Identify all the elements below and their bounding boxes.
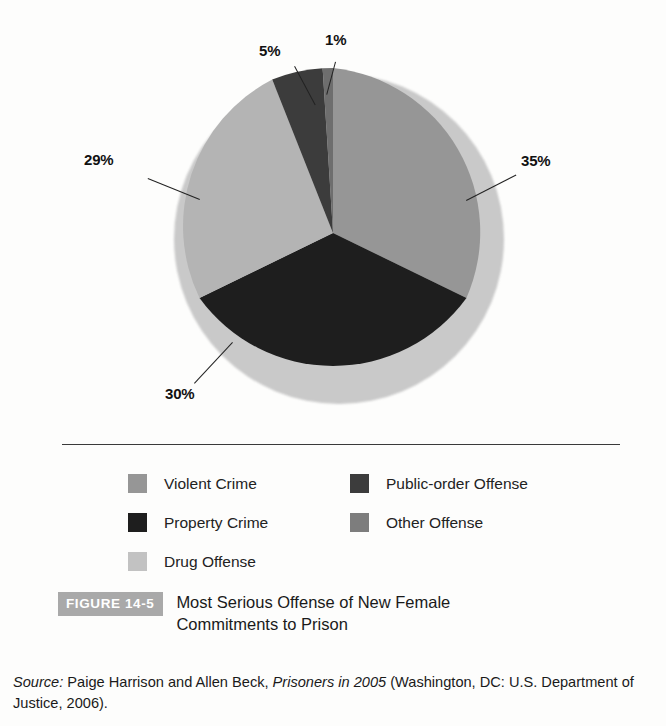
- legend-label-public-order-offense: Public-order Offense: [386, 475, 528, 493]
- figure-root: 1% 5% 35% 29% 30% Violent Crime Public-o…: [0, 0, 666, 726]
- legend-item-drug-offense[interactable]: Drug Offense: [128, 552, 350, 571]
- source-prefix: Source:: [13, 674, 63, 690]
- legend-divider-rule: [62, 444, 620, 445]
- pie-label-public-order-offense: 5%: [259, 42, 280, 59]
- legend-swatch-other-offense: [350, 513, 369, 532]
- figure-caption: FIGURE 14-5 Most Serious Offense of New …: [58, 592, 658, 636]
- source-authors: Paige Harrison and Allen Beck,: [63, 674, 272, 690]
- pie-chart-area: 1% 5% 35% 29% 30%: [0, 0, 666, 432]
- figure-title-line1: Most Serious Offense of New Female: [176, 593, 450, 611]
- pie-chart: [168, 68, 498, 398]
- pie-label-drug-offense: 29%: [84, 151, 113, 168]
- legend-item-property-crime[interactable]: Property Crime: [128, 513, 350, 532]
- source-work-title: Prisoners in 2005: [273, 674, 387, 690]
- pie-label-other-offense: 1%: [325, 31, 346, 48]
- legend-item-public-order-offense[interactable]: Public-order Offense: [350, 474, 610, 493]
- chart-legend: Violent Crime Public-order Offense Prope…: [128, 464, 628, 581]
- legend-swatch-violent-crime: [128, 474, 147, 493]
- legend-row: Property Crime Other Offense: [128, 503, 628, 542]
- legend-label-property-crime: Property Crime: [164, 514, 268, 532]
- legend-label-violent-crime: Violent Crime: [164, 475, 257, 493]
- legend-label-drug-offense: Drug Offense: [164, 553, 256, 571]
- figure-source: Source: Paige Harrison and Allen Beck, P…: [13, 672, 653, 713]
- legend-swatch-public-order-offense: [350, 474, 369, 493]
- figure-number-badge: FIGURE 14-5: [58, 592, 163, 616]
- legend-item-other-offense[interactable]: Other Offense: [350, 513, 610, 532]
- legend-swatch-drug-offense: [128, 552, 147, 571]
- figure-title-line2: Commitments to Prison: [176, 615, 347, 633]
- legend-swatch-property-crime: [128, 513, 147, 532]
- legend-row: Violent Crime Public-order Offense: [128, 464, 628, 503]
- legend-label-other-offense: Other Offense: [386, 514, 483, 532]
- pie-label-violent-crime: 35%: [521, 152, 550, 169]
- legend-item-violent-crime[interactable]: Violent Crime: [128, 474, 350, 493]
- pie-slices-svg: [168, 68, 498, 398]
- legend-row: Drug Offense: [128, 542, 628, 581]
- pie-label-property-crime: 30%: [165, 385, 194, 402]
- figure-title: Most Serious Offense of New Female Commi…: [176, 592, 450, 636]
